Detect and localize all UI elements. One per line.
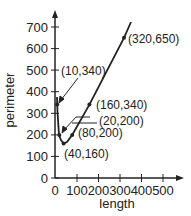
y-tick-label: 0: [41, 171, 48, 186]
y-axis-title: perimeter: [2, 72, 17, 128]
y-tick-label: 600: [26, 41, 48, 56]
y-tick-label: 700: [26, 20, 48, 35]
data-point: [87, 103, 91, 107]
x-axis-arrow-icon: [176, 175, 184, 181]
annotation-label: (80,200): [78, 126, 123, 140]
data-point: [122, 36, 126, 40]
data-point: [70, 133, 74, 137]
y-tick-label: 500: [26, 63, 48, 78]
x-tick-label: 100: [66, 183, 88, 198]
y-tick-label: 200: [26, 127, 48, 142]
annotation-label: (320,650): [128, 32, 179, 46]
y-axis-arrow-icon: [52, 10, 58, 18]
annotation-label: (160,340): [96, 98, 147, 112]
chart: 0 100 200 300 400 500 600 700 0 100 200 …: [0, 0, 191, 216]
annotation-label: (10,340): [61, 64, 106, 78]
x-tick-label: 500: [152, 183, 174, 198]
y-tick-label: 300: [26, 106, 48, 121]
data-point: [62, 142, 66, 146]
x-axis-title: length: [99, 196, 134, 211]
y-tick-label: 400: [26, 84, 48, 99]
annotation-label: (40,160): [64, 147, 109, 161]
x-tick-label: 0: [51, 183, 58, 198]
y-tick-labels: 0 100 200 300 400 500 600 700: [26, 20, 48, 186]
y-tick-label: 100: [26, 149, 48, 164]
data-point: [57, 133, 61, 137]
